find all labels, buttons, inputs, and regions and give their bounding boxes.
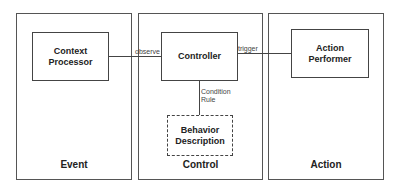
trigger-edge [237, 53, 291, 54]
observe-edge-label: observe [135, 48, 160, 56]
trigger-edge-label: trigger [238, 45, 258, 53]
event-panel-label: Event [17, 159, 131, 170]
action-panel-label: Action [269, 159, 383, 170]
context-processor-node: Context Processor [32, 32, 109, 81]
observe-edge [108, 56, 161, 57]
control-panel-label: Control [139, 159, 262, 170]
behavior-description-node: Behavior Description [167, 115, 233, 156]
condition-rule-edge-label: Condition Rule [201, 88, 231, 104]
condition-rule-edge [199, 80, 200, 115]
action-performer-node: Action Performer [291, 29, 369, 78]
controller-node: Controller [161, 32, 238, 81]
